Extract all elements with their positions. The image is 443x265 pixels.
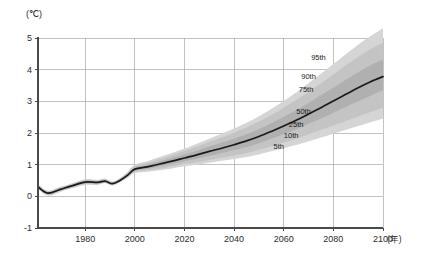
- percentile-label-10th: 10th: [284, 131, 299, 140]
- percentile-label-25th: 25th: [289, 120, 304, 129]
- y-tick-label: 3: [27, 96, 32, 106]
- y-tick-label: -1: [24, 223, 32, 233]
- x-tick-label: 2080: [323, 234, 343, 244]
- x-axis-unit-label: (年): [387, 234, 402, 244]
- x-tick-label: 2000: [125, 234, 145, 244]
- percentile-label-75th: 75th: [299, 85, 314, 94]
- x-tick-label: 2040: [224, 234, 244, 244]
- chart-figure: (℃) -10123451980200020202040206020802100…: [0, 0, 443, 265]
- percentile-label-90th: 90th: [301, 72, 316, 81]
- y-tick-label: 4: [27, 65, 32, 75]
- y-tick-label: 5: [27, 33, 32, 43]
- percentile-label-50th: 50th: [296, 107, 311, 116]
- y-tick-label: 0: [27, 191, 32, 201]
- y-tick-label: 1: [27, 160, 32, 170]
- percentile-label-95th: 95th: [311, 53, 326, 62]
- x-tick-label: 2020: [174, 234, 194, 244]
- y-tick-label: 2: [27, 128, 32, 138]
- x-tick-label: 2060: [274, 234, 294, 244]
- uncertainty-bands: [38, 29, 383, 196]
- temperature-projection-plot: -10123451980200020202040206020802100(年) …: [0, 0, 443, 265]
- x-tick-label: 1980: [75, 234, 95, 244]
- band-10-90: [38, 42, 383, 195]
- percentile-label-5th: 5th: [274, 142, 284, 151]
